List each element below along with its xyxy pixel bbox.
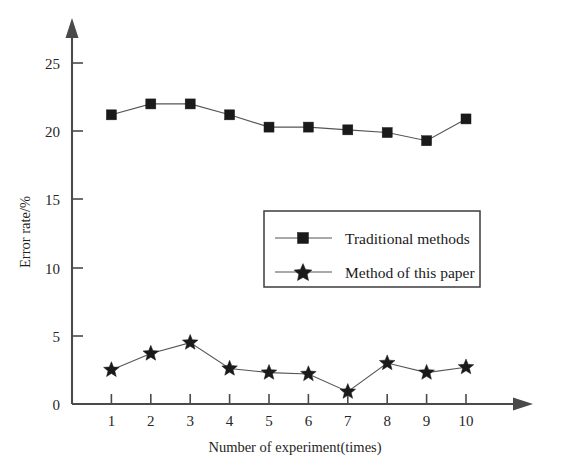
legend-label: Traditional methods bbox=[345, 230, 470, 247]
y-tick-marks bbox=[72, 63, 83, 336]
legend-label: Method of this paper bbox=[345, 264, 475, 281]
x-tick-marks bbox=[111, 394, 466, 404]
x-tick-label: 7 bbox=[344, 413, 352, 429]
x-tick-label: 10 bbox=[459, 413, 474, 429]
square-marker-icon bbox=[382, 128, 392, 138]
star-marker-icon bbox=[182, 334, 198, 349]
chart-canvas: 25 20 15 10 5 0 Error rate/% 12345678910… bbox=[0, 0, 565, 473]
x-tick-label: 3 bbox=[186, 413, 194, 429]
star-marker-icon bbox=[261, 364, 277, 379]
x-tick-label: 6 bbox=[305, 413, 313, 429]
square-marker-icon bbox=[303, 122, 313, 132]
y-axis-title: Error rate/% bbox=[17, 196, 33, 268]
square-marker-icon bbox=[422, 136, 432, 146]
square-marker-icon bbox=[225, 110, 235, 120]
x-tick-labels: 12345678910 bbox=[108, 413, 474, 429]
y-tick-label: 20 bbox=[45, 124, 60, 140]
square-marker-icon bbox=[146, 99, 156, 109]
star-marker-icon bbox=[419, 364, 435, 379]
y-tick-label: 15 bbox=[45, 192, 60, 208]
square-marker-icon bbox=[264, 122, 274, 132]
chart-legend: Traditional methods Method of this paper bbox=[264, 211, 480, 287]
square-marker-icon bbox=[185, 99, 195, 109]
star-marker-icon bbox=[143, 345, 159, 360]
x-tick-label: 8 bbox=[383, 413, 391, 429]
y-tick-labels: 25 20 15 10 5 0 bbox=[45, 56, 60, 413]
y-tick-label: 0 bbox=[53, 397, 61, 413]
x-tick-label: 5 bbox=[265, 413, 273, 429]
x-axis bbox=[72, 398, 533, 411]
y-tick-label: 10 bbox=[45, 261, 60, 277]
y-axis-arrow-icon bbox=[66, 18, 79, 38]
square-marker-icon bbox=[298, 233, 309, 244]
square-marker-icon bbox=[106, 110, 116, 120]
square-marker-icon bbox=[461, 114, 471, 124]
series-line bbox=[111, 343, 466, 392]
x-tick-label: 9 bbox=[423, 413, 431, 429]
series-traditional-methods bbox=[106, 99, 471, 146]
y-axis bbox=[66, 18, 79, 404]
x-axis-title: Number of experiment(times) bbox=[208, 439, 381, 456]
square-marker-icon bbox=[343, 125, 353, 135]
star-marker-icon bbox=[301, 366, 317, 381]
series-line bbox=[111, 104, 466, 141]
x-tick-label: 1 bbox=[108, 413, 116, 429]
x-tick-label: 4 bbox=[226, 413, 234, 429]
star-marker-icon bbox=[104, 362, 120, 377]
x-axis-arrow-icon bbox=[513, 398, 533, 411]
star-marker-icon bbox=[458, 359, 474, 374]
x-tick-label: 2 bbox=[147, 413, 155, 429]
series-method-of-this-paper bbox=[104, 334, 474, 398]
y-tick-label: 5 bbox=[53, 329, 61, 345]
chart-figure: 25 20 15 10 5 0 Error rate/% 12345678910… bbox=[0, 0, 565, 473]
y-tick-label: 25 bbox=[45, 56, 60, 72]
star-marker-icon bbox=[222, 360, 238, 375]
